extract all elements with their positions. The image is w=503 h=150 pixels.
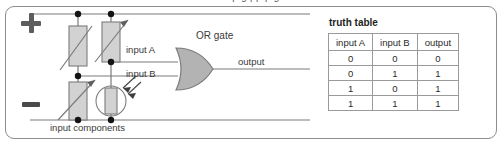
truth-table-cell: 1 — [329, 96, 373, 111]
table-row: 1 1 1 — [329, 96, 459, 111]
ldr-body — [105, 88, 117, 114]
output-label: output — [238, 56, 264, 67]
light-dependent-resistor — [96, 76, 141, 116]
truth-table-cell: 0 — [417, 51, 458, 66]
positive-supply-symbol — [21, 13, 41, 33]
truth-table-title: truth table — [329, 17, 378, 28]
truth-table-cell: 1 — [373, 66, 418, 81]
variable-resistor-top-right — [95, 20, 128, 62]
truth-table-column-header: input B — [373, 34, 418, 51]
truth-table-column-header: input A — [329, 34, 373, 51]
truth-table-cell: 0 — [329, 66, 373, 81]
truth-table-column-header: output — [417, 34, 458, 51]
junction-dot — [108, 59, 114, 65]
logic-gate-figure: a p g pp p g — [0, 0, 503, 150]
variable-resistor-bottom-left — [58, 80, 95, 120]
or-gate-label: OR gate — [196, 30, 233, 41]
truth-table-cell: 1 — [329, 81, 373, 96]
or-gate-symbol — [176, 48, 213, 90]
truth-table-cell: 1 — [373, 96, 418, 111]
variable-arrow-head — [120, 20, 128, 27]
input-components-label: input components — [50, 122, 125, 133]
truth-table-cell: 1 — [417, 96, 458, 111]
negative-supply-symbol — [22, 102, 40, 107]
input-b-label: input B — [126, 68, 156, 79]
variable-resistor-top-left — [60, 26, 92, 70]
truth-table: input A input B output 0 0 0 0 1 1 1 0 1 — [328, 33, 459, 111]
truth-table-cell: 0 — [373, 51, 418, 66]
junction-dot — [108, 11, 114, 17]
light-arrow-head-2 — [128, 93, 136, 99]
truth-table-cell: 1 — [417, 66, 458, 81]
truth-table-header-row: input A input B output — [329, 34, 459, 51]
table-row: 1 0 1 — [329, 81, 459, 96]
table-row: 0 1 1 — [329, 66, 459, 81]
truth-table-cell: 0 — [373, 81, 418, 96]
variable-arrow-head — [87, 80, 95, 87]
truth-table-cell: 1 — [417, 81, 458, 96]
resistor-body — [69, 82, 87, 120]
junction-dot — [75, 73, 81, 79]
truth-table-cell: 0 — [329, 51, 373, 66]
input-a-label: input A — [126, 44, 155, 55]
table-row: 0 0 0 — [329, 51, 459, 66]
junction-dot — [75, 11, 81, 17]
